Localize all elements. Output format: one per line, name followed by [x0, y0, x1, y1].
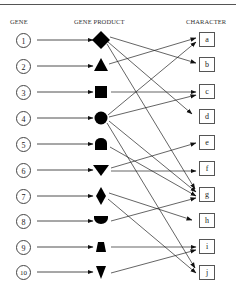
product-square [95, 86, 107, 98]
product-triangle-up [94, 58, 108, 71]
character-d: d [199, 109, 215, 124]
gene-8: 8 [16, 214, 31, 229]
product-circle [95, 112, 108, 125]
product-half-circle [94, 216, 108, 224]
product-diamond [92, 31, 110, 49]
product-to-character-arrows [107, 37, 196, 273]
product-triangle-down [93, 165, 109, 176]
gene-5: 5 [16, 137, 31, 152]
character-h: h [199, 213, 215, 228]
character-e: e [199, 135, 215, 150]
gene-to-product-arrows [37, 40, 93, 272]
gene-7: 7 [16, 189, 31, 204]
character-b: b [199, 57, 215, 72]
gene-2: 2 [16, 59, 31, 74]
gene-4: 4 [16, 111, 31, 126]
gene-10: 10 [16, 265, 31, 280]
character-g: g [199, 187, 215, 202]
gene-3: 3 [16, 85, 31, 100]
gene-9: 9 [16, 240, 31, 255]
gene-products [92, 31, 110, 279]
gene-6: 6 [16, 163, 31, 178]
product-small-triangle-down [96, 266, 106, 279]
character-a: a [199, 32, 215, 47]
character-c: c [199, 84, 215, 99]
character-i: i [199, 239, 215, 254]
product-trapezoid [96, 242, 106, 252]
character-f: f [199, 161, 215, 176]
character-j: j [199, 265, 215, 280]
product-small-diamond [96, 187, 106, 205]
product-dome [95, 138, 107, 150]
gene-1: 1 [16, 33, 31, 48]
